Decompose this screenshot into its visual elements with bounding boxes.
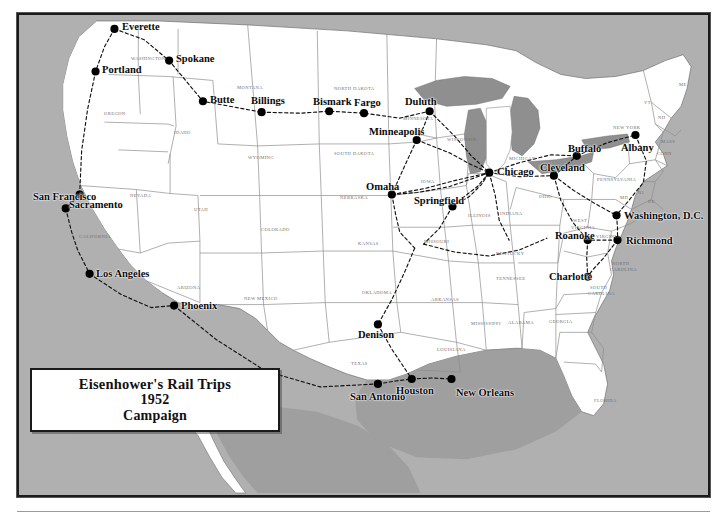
map-page: WASHINGTONOREGONIDAHOMONTANAWYOMINGNEVAD… — [0, 0, 727, 517]
city-dot — [91, 67, 99, 75]
city-dot — [573, 152, 581, 160]
map-title-cartouche: Eisenhower's Rail Trips 1952 Campaign — [30, 368, 280, 432]
city-dot — [613, 236, 621, 244]
city-dot — [584, 236, 592, 244]
bottom-divider-rule — [17, 511, 710, 512]
city-dot — [199, 97, 207, 105]
city-dot — [408, 375, 416, 383]
city-dot — [374, 320, 382, 328]
city-dot — [325, 107, 333, 115]
city-dot — [426, 107, 434, 115]
city-dot — [388, 190, 396, 198]
city-dot — [360, 109, 368, 117]
city-dot — [258, 108, 266, 116]
city-dot — [631, 131, 639, 139]
city-dot — [584, 273, 592, 281]
city-dot — [62, 204, 70, 212]
city-dot — [374, 380, 382, 388]
city-dot — [447, 375, 455, 383]
city-dot — [76, 190, 84, 198]
title-line-1: Eisenhower's Rail Trips — [79, 376, 231, 392]
city-dot — [86, 270, 94, 278]
city-dot — [413, 136, 421, 144]
title-line-3: Campaign — [123, 408, 187, 424]
city-dot — [550, 172, 558, 180]
city-dot — [165, 57, 173, 65]
city-dot — [110, 25, 118, 33]
city-dot — [170, 302, 178, 310]
title-line-2: 1952 — [141, 392, 170, 408]
city-dot — [448, 202, 456, 210]
city-dot — [612, 211, 620, 219]
city-dot — [485, 169, 493, 177]
